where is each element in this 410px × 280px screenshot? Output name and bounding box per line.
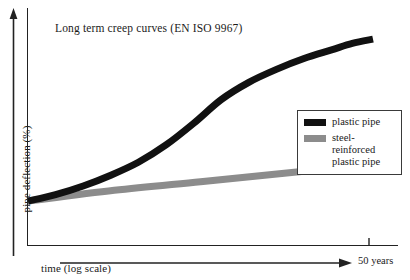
gray-line-swatch-icon <box>304 135 326 142</box>
legend-item-steel-reinforced-plastic-pipe: steel-reinforced plastic pipe <box>304 132 396 168</box>
chart-legend: plastic pipe steel-reinforced plastic pi… <box>297 110 402 175</box>
black-line-swatch-icon <box>304 119 326 126</box>
x-axis-tick-label-50-years: 50 years <box>358 255 393 266</box>
legend-item-label: plastic pipe <box>332 116 380 128</box>
chart-screenshot: pipe deflection (%) time (log scale) Lon… <box>0 0 410 280</box>
chart-title: Long term creep curves (EN ISO 9967) <box>55 22 242 34</box>
legend-item-label: steel-reinforced plastic pipe <box>332 132 396 168</box>
legend-item-plastic-pipe: plastic pipe <box>304 116 396 128</box>
x-axis-title: time (log scale) <box>41 262 111 274</box>
